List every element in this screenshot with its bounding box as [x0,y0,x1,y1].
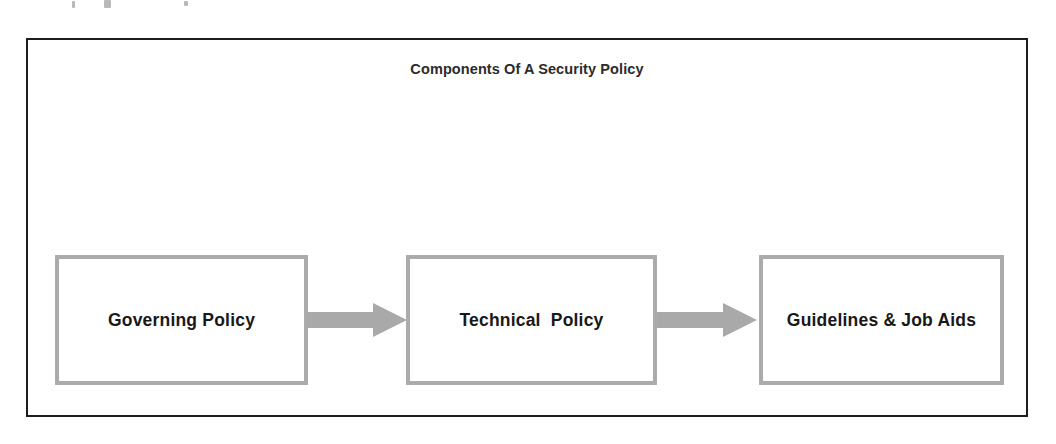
arrow-right-icon [657,303,757,337]
arrow-right-icon [307,303,407,337]
flowchart: Governing Policy Technical Policy Guidel… [55,255,1004,385]
figure-frame: Components Of A Security Policy Governin… [26,38,1028,417]
flow-node-guidelines-job-aids[interactable]: Guidelines & Job Aids [759,255,1004,385]
flow-node-label: Guidelines & Job Aids [787,310,976,331]
scan-artifact [60,0,320,9]
flow-node-label: Governing Policy [108,310,255,331]
flow-node-governing-policy[interactable]: Governing Policy [55,255,308,385]
flow-arrow-governing-to-technical [307,303,407,337]
diagram-title: Components Of A Security Policy [28,61,1026,77]
flow-node-label: Technical Policy [459,310,603,331]
flow-node-technical-policy[interactable]: Technical Policy [406,255,657,385]
flow-arrow-technical-to-guidelines [657,303,757,337]
